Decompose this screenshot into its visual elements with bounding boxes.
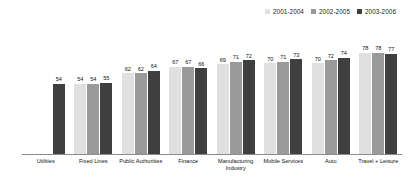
bar-group: 545455 bbox=[70, 24, 118, 154]
bar-slot: 74 bbox=[338, 24, 350, 154]
bar[interactable] bbox=[338, 58, 350, 154]
bar[interactable] bbox=[359, 53, 371, 154]
legend-swatch-series-2 bbox=[311, 9, 316, 14]
bar-slot: 54 bbox=[87, 24, 99, 154]
bar-value-label: 67 bbox=[185, 59, 191, 65]
bar-slot: 78 bbox=[359, 24, 371, 154]
bar-value-label: 69 bbox=[220, 57, 226, 63]
bar-value-label: 54 bbox=[56, 76, 62, 82]
bar-group-bars: 545455 bbox=[70, 24, 118, 154]
bar[interactable] bbox=[230, 62, 242, 154]
bar-slot: 55 bbox=[100, 24, 112, 154]
bar-value-label: 66 bbox=[198, 61, 204, 67]
bar-group: 697172 bbox=[212, 24, 260, 154]
bar-slot: 66 bbox=[195, 24, 207, 154]
bar[interactable] bbox=[148, 71, 160, 154]
bar-group-bars: 787877 bbox=[355, 24, 403, 154]
bar[interactable] bbox=[217, 64, 229, 154]
bar-value-label: 67 bbox=[172, 59, 178, 65]
bar-slot: 71 bbox=[230, 24, 242, 154]
legend-item-series-3: 2003-2006 bbox=[357, 8, 396, 15]
bar-slot: 54 bbox=[74, 24, 86, 154]
plot-area: 5454545562626467676669717270717370727478… bbox=[22, 24, 402, 155]
bar-slot: 73 bbox=[290, 24, 302, 154]
legend-item-series-2: 2002-2005 bbox=[311, 8, 350, 15]
category-label: Utilities bbox=[22, 158, 70, 165]
bar[interactable] bbox=[53, 84, 65, 154]
bar-value-label: 70 bbox=[267, 56, 273, 62]
legend-label-series-2: 2002-2005 bbox=[319, 8, 350, 15]
bar-slot: 70 bbox=[312, 24, 324, 154]
bar[interactable] bbox=[74, 84, 86, 154]
chart-legend: 2001-2004 2002-2005 2003-2006 bbox=[0, 5, 418, 18]
bar[interactable] bbox=[169, 67, 181, 154]
bar-group-bars: 626264 bbox=[117, 24, 165, 154]
category-label: Fixed Lines bbox=[70, 158, 118, 165]
bar-value-label: 78 bbox=[375, 45, 381, 51]
bar-slot: 72 bbox=[243, 24, 255, 154]
bar[interactable] bbox=[195, 68, 207, 154]
bar-group: 707274 bbox=[307, 24, 355, 154]
bar-slot: 62 bbox=[122, 24, 134, 154]
category-label: Finance bbox=[165, 158, 213, 165]
legend-label-series-1: 2001-2004 bbox=[273, 8, 304, 15]
bar-group-bars: 676766 bbox=[165, 24, 213, 154]
bar-slot: 69 bbox=[217, 24, 229, 154]
bar[interactable] bbox=[312, 63, 324, 154]
bar-chart: 2001-2004 2002-2005 2003-2006 5454545562… bbox=[0, 0, 418, 187]
bar-group: 676766 bbox=[165, 24, 213, 154]
bar-group-bars: 697172 bbox=[212, 24, 260, 154]
bar[interactable] bbox=[182, 67, 194, 154]
bar[interactable] bbox=[325, 60, 337, 154]
bar-group: 787877 bbox=[355, 24, 403, 154]
category-label: Mobile Services bbox=[260, 158, 308, 165]
bar[interactable] bbox=[243, 60, 255, 154]
category-label: Auto bbox=[307, 158, 355, 165]
bar-value-label: 73 bbox=[293, 52, 299, 58]
bar[interactable] bbox=[100, 83, 112, 155]
bar-slot: 64 bbox=[148, 24, 160, 154]
x-axis-baseline bbox=[22, 154, 402, 155]
bar[interactable] bbox=[385, 54, 397, 154]
bar-value-label: 64 bbox=[151, 63, 157, 69]
bar-value-label: 55 bbox=[103, 75, 109, 81]
category-label: Travel + Leisure bbox=[355, 158, 403, 165]
bar-group-bars: 707274 bbox=[307, 24, 355, 154]
bar-slot: 62 bbox=[135, 24, 147, 154]
bar-slot: 54 bbox=[53, 24, 65, 154]
bar-slot: 71 bbox=[277, 24, 289, 154]
legend-swatch-series-3 bbox=[357, 9, 362, 14]
bar-value-label: 74 bbox=[341, 50, 347, 56]
bar-value-label: 62 bbox=[125, 66, 131, 72]
bar-value-label: 77 bbox=[388, 46, 394, 52]
bar-group: 54 bbox=[22, 24, 70, 154]
category-axis-labels: UtilitiesFixed LinesPublic AuthoritiesFi… bbox=[22, 158, 402, 184]
bar-group-bars: 54 bbox=[22, 24, 70, 154]
bar[interactable] bbox=[372, 53, 384, 154]
bar-value-label: 71 bbox=[280, 54, 286, 60]
bar-slot bbox=[27, 24, 39, 154]
bar-slot: 78 bbox=[372, 24, 384, 154]
bar-group: 707173 bbox=[260, 24, 308, 154]
legend-label-series-3: 2003-2006 bbox=[365, 8, 396, 15]
bar[interactable] bbox=[264, 63, 276, 154]
bar-value-label: 71 bbox=[233, 54, 239, 60]
bar-slot: 72 bbox=[325, 24, 337, 154]
bar-value-label: 54 bbox=[90, 76, 96, 82]
bar-value-label: 54 bbox=[77, 76, 83, 82]
category-label: Public Authorities bbox=[117, 158, 165, 165]
bar-value-label: 62 bbox=[138, 66, 144, 72]
bar-value-label: 78 bbox=[362, 45, 368, 51]
legend-swatch-series-1 bbox=[265, 9, 270, 14]
bar-slot: 67 bbox=[182, 24, 194, 154]
bar-group: 626264 bbox=[117, 24, 165, 154]
bar-value-label: 70 bbox=[315, 56, 321, 62]
bar[interactable] bbox=[122, 73, 134, 154]
bar-slot: 70 bbox=[264, 24, 276, 154]
bar-slot: 67 bbox=[169, 24, 181, 154]
bar[interactable] bbox=[277, 62, 289, 154]
category-label: Manufacturing Industry bbox=[212, 158, 260, 172]
bar[interactable] bbox=[135, 73, 147, 154]
bar[interactable] bbox=[290, 59, 302, 154]
bar[interactable] bbox=[87, 84, 99, 154]
